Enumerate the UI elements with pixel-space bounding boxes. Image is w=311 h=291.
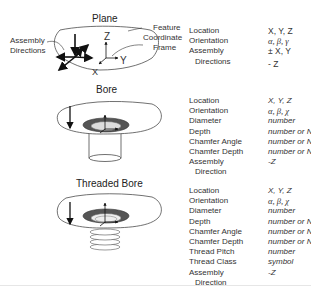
bore-drawing bbox=[57, 101, 161, 161]
property-value: symbol bbox=[268, 257, 293, 267]
property-row: Depthnumber or NIL bbox=[189, 217, 311, 227]
feature-label-line: Feature bbox=[143, 23, 182, 33]
property-name: Diameter bbox=[189, 116, 268, 126]
property-value: X, Y, Z bbox=[268, 186, 292, 196]
property-value: - Z bbox=[268, 57, 278, 69]
property-row: Assembly-Z bbox=[189, 268, 311, 278]
assembly-label-line: Assembly bbox=[10, 36, 46, 46]
property-value: number bbox=[268, 206, 295, 216]
property-row: Orientationα, β, χ bbox=[189, 196, 311, 206]
feature-coordinate-frame-label: Feature Coordinate Frame bbox=[143, 23, 182, 53]
bore-title: Bore bbox=[96, 84, 117, 95]
coordinate-label-line: Coordinate bbox=[143, 33, 182, 43]
directions-label-line: Directions bbox=[10, 46, 46, 56]
property-value: -Z bbox=[268, 157, 276, 167]
bottom-divider bbox=[0, 285, 311, 286]
property-row: Chamfer Anglenumber or NIL bbox=[189, 137, 311, 147]
property-value: α, β, γ bbox=[268, 36, 289, 46]
property-value: number bbox=[268, 116, 295, 126]
property-name: Location bbox=[189, 26, 268, 36]
assembly-directions-label: Assembly Directions bbox=[10, 36, 46, 56]
property-row: LocationX, Y, Z bbox=[189, 96, 311, 106]
property-value: X, Y, Z bbox=[268, 26, 293, 36]
property-name: Thread Pitch bbox=[189, 247, 268, 257]
property-row: Thread Classsymbol bbox=[189, 257, 311, 267]
property-value: number or NIL bbox=[268, 237, 311, 247]
property-value: number or NIL bbox=[268, 147, 311, 157]
property-row: LocationX, Y, Z bbox=[189, 26, 293, 36]
property-name: Chamfer Angle bbox=[189, 227, 268, 237]
property-value: number or NIL bbox=[268, 227, 311, 237]
property-row: Chamfer Anglenumber or NIL bbox=[189, 227, 311, 237]
property-row: Diameternumber bbox=[189, 116, 311, 126]
property-value: α, β, χ bbox=[268, 106, 289, 116]
property-value: -Z bbox=[268, 268, 276, 278]
property-name: Chamfer Angle bbox=[189, 137, 268, 147]
plane-drawing bbox=[47, 26, 159, 70]
property-value: α, β, χ bbox=[268, 196, 289, 206]
property-name: Location bbox=[189, 96, 268, 106]
property-name: Assembly bbox=[189, 268, 268, 278]
property-row: Directions- Z bbox=[189, 57, 293, 69]
property-value: X, Y, Z bbox=[268, 96, 292, 106]
property-row: Depthnumber or NIL bbox=[189, 127, 311, 137]
property-row: Chamfer Depthnumber or NIL bbox=[189, 147, 311, 157]
property-name: Assembly bbox=[189, 157, 268, 167]
property-name: Depth bbox=[189, 217, 268, 227]
property-row: Diameternumber bbox=[189, 206, 311, 216]
property-row: Assembly-Z bbox=[189, 157, 311, 167]
property-row: Orientationα, β, γ bbox=[189, 36, 293, 46]
bore-properties: LocationX, Y, Z Orientationα, β, χ Diame… bbox=[189, 96, 311, 178]
property-name: Orientation bbox=[189, 36, 268, 46]
axis-x-label: X bbox=[92, 67, 98, 77]
threaded-bore-drawing bbox=[57, 194, 161, 250]
frame-label-line: Frame bbox=[143, 43, 182, 53]
property-row: Direction bbox=[189, 278, 311, 288]
property-name: Direction bbox=[189, 278, 268, 288]
axis-z-label: Z bbox=[104, 32, 110, 42]
property-name: Depth bbox=[189, 127, 268, 137]
property-row: Direction bbox=[189, 167, 311, 177]
property-name: Assembly bbox=[189, 46, 268, 56]
property-name: Location bbox=[189, 186, 268, 196]
property-name: Orientation bbox=[189, 196, 268, 206]
property-value: number or NIL bbox=[268, 127, 311, 137]
property-row: Assembly± X, Y bbox=[189, 46, 293, 56]
property-name: Chamfer Depth bbox=[189, 147, 268, 157]
property-value: number bbox=[268, 247, 295, 257]
threaded-bore-properties: LocationX, Y, Z Orientationα, β, χ Diame… bbox=[189, 186, 311, 288]
property-name: Direction bbox=[189, 167, 268, 177]
plane-title: Plane bbox=[92, 13, 118, 24]
property-value: number or NIL bbox=[268, 137, 311, 147]
threaded-bore-title: Threaded Bore bbox=[76, 178, 143, 189]
property-name: Diameter bbox=[189, 206, 268, 216]
property-row: Chamfer Depthnumber or NIL bbox=[189, 237, 311, 247]
property-name: Thread Class bbox=[189, 257, 268, 267]
property-row: LocationX, Y, Z bbox=[189, 186, 311, 196]
property-row: Orientationα, β, χ bbox=[189, 106, 311, 116]
property-name: Chamfer Depth bbox=[189, 237, 268, 247]
property-row: Thread Pitchnumber bbox=[189, 247, 311, 257]
property-value: ± X, Y bbox=[268, 46, 291, 56]
property-name: Orientation bbox=[189, 106, 268, 116]
plane-properties: LocationX, Y, Z Orientationα, β, γ Assem… bbox=[189, 26, 293, 69]
property-name: Directions bbox=[189, 57, 268, 69]
axis-y-label: Y bbox=[120, 56, 127, 66]
property-value: number or NIL bbox=[268, 217, 311, 227]
